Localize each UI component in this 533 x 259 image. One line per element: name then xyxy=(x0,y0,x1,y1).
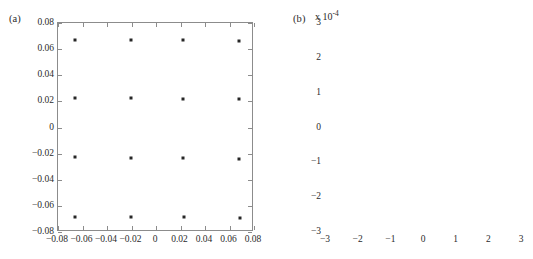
y-axis-tick-label: 3 xyxy=(316,17,321,27)
x-axis-tick xyxy=(230,226,231,230)
data-point xyxy=(238,98,241,101)
data-point xyxy=(238,39,241,42)
x-axis-tick-label: 0.08 xyxy=(245,234,262,244)
data-point xyxy=(73,97,76,100)
x-axis-tick-label: 0.04 xyxy=(196,234,213,244)
x-axis-tick-label: −0.02 xyxy=(120,234,142,244)
panel-a-axes xyxy=(57,22,253,231)
y-axis-tick xyxy=(248,128,252,129)
x-axis-tick xyxy=(132,23,133,27)
x-axis-tick xyxy=(205,226,206,230)
data-point xyxy=(129,215,132,218)
multiplier-exponent: -4 xyxy=(333,9,339,18)
x-axis-tick-label: −3 xyxy=(320,234,330,244)
y-axis-tick xyxy=(58,128,62,129)
x-axis-tick xyxy=(83,226,84,230)
data-point xyxy=(74,38,77,41)
x-axis-tick-label: −1 xyxy=(385,234,395,244)
y-axis-tick-label: 0.06 xyxy=(37,43,54,53)
x-axis-tick xyxy=(132,226,133,230)
figure-container: (a) −0.08−0.06−0.04−0.0200.020.040.060.0… xyxy=(0,0,533,259)
y-axis-tick-label: −2 xyxy=(311,191,321,201)
y-axis-tick-label: −0.02 xyxy=(32,148,54,158)
panel-b-label: (b) xyxy=(293,13,306,24)
y-axis-tick-label: −1 xyxy=(311,156,321,166)
y-axis-tick-label: −3 xyxy=(311,226,321,236)
x-axis-tick xyxy=(254,226,255,230)
y-axis-tick-label: 0.08 xyxy=(37,17,54,27)
x-axis-tick-label: 0 xyxy=(153,234,158,244)
y-axis-tick-label: −0.08 xyxy=(32,226,54,236)
x-axis-tick xyxy=(254,23,255,27)
y-axis-tick-label: −0.06 xyxy=(32,200,54,210)
y-axis-tick-label: 0 xyxy=(49,122,54,132)
panel-a-plot-area xyxy=(58,23,252,230)
x-axis-tick xyxy=(181,23,182,27)
y-axis-tick xyxy=(248,154,252,155)
y-axis-tick xyxy=(58,232,62,233)
y-axis-tick xyxy=(248,49,252,50)
x-axis-tick-label: 0.06 xyxy=(220,234,237,244)
y-axis-tick-label: −0.04 xyxy=(32,174,54,184)
y-axis-tick-label: 0.04 xyxy=(37,69,54,79)
data-point xyxy=(182,38,185,41)
data-point xyxy=(238,157,241,160)
x-axis-tick-label: −0.04 xyxy=(95,234,117,244)
x-axis-tick-label: 0.02 xyxy=(171,234,188,244)
y-axis-tick-label: 2 xyxy=(316,52,321,62)
data-point xyxy=(182,157,185,160)
data-point xyxy=(74,215,77,218)
x-axis-tick xyxy=(83,23,84,27)
data-point xyxy=(129,38,132,41)
y-axis-tick xyxy=(58,180,62,181)
panel-a-label: (a) xyxy=(9,13,21,24)
x-axis-tick xyxy=(58,226,59,230)
x-axis-tick-label: 2 xyxy=(486,234,491,244)
x-axis-tick-label: −0.06 xyxy=(71,234,93,244)
x-axis-tick-label: 0 xyxy=(421,234,426,244)
y-axis-tick-label: 1 xyxy=(316,87,321,97)
x-axis-tick xyxy=(107,23,108,27)
data-point xyxy=(238,216,241,219)
y-axis-tick xyxy=(248,180,252,181)
x-axis-tick xyxy=(205,23,206,27)
panel-b: (b) x 10-4 −3−2−10123−3−2−10123 xyxy=(267,0,533,259)
y-axis-tick xyxy=(248,101,252,102)
panel-a: (a) −0.08−0.06−0.04−0.0200.020.040.060.0… xyxy=(0,0,267,259)
x-axis-tick-label: 3 xyxy=(519,234,524,244)
x-axis-tick xyxy=(181,226,182,230)
data-point xyxy=(182,216,185,219)
y-axis-tick xyxy=(58,75,62,76)
y-axis-tick xyxy=(58,49,62,50)
x-axis-tick xyxy=(156,23,157,27)
x-axis-tick xyxy=(230,23,231,27)
y-axis-tick xyxy=(58,206,62,207)
data-point xyxy=(181,97,184,100)
x-axis-tick-label: −2 xyxy=(353,234,363,244)
y-axis-tick-label: 0.02 xyxy=(37,95,54,105)
data-point xyxy=(129,97,132,100)
y-axis-tick xyxy=(248,206,252,207)
y-axis-tick xyxy=(58,154,62,155)
x-axis-tick xyxy=(156,226,157,230)
y-axis-tick xyxy=(58,101,62,102)
y-axis-tick-label: 0 xyxy=(316,122,321,132)
y-axis-tick xyxy=(248,75,252,76)
y-axis-tick xyxy=(58,23,62,24)
y-axis-tick xyxy=(248,23,252,24)
data-point xyxy=(73,156,76,159)
y-axis-tick xyxy=(248,232,252,233)
x-axis-tick-label: 1 xyxy=(453,234,458,244)
data-point xyxy=(129,156,132,159)
x-axis-tick xyxy=(107,226,108,230)
